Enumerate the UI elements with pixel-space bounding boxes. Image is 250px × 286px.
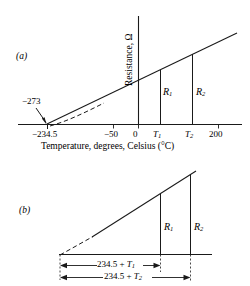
panel-a-x-axis-title: Temperature, degrees, Celsius (°C) xyxy=(41,142,174,152)
panel-b-dim1-arrow-right xyxy=(154,263,161,268)
panel-a-resistance-line xyxy=(47,33,237,124)
panel-a-r1-sub: 1 xyxy=(169,90,172,97)
panel-b-r2-label: R2 xyxy=(194,222,203,233)
panel-b-dim-t2-prefix: 234.5 + xyxy=(104,271,134,281)
resistance-temperature-figure: (a) Resistance, Ω −273 −234.5 −50 0 T1 T… xyxy=(0,0,250,286)
panel-a-y-axis-title: Resistance, Ω xyxy=(125,34,135,86)
panel-b-dim-t1-prefix: 234.5 + xyxy=(97,259,127,269)
panel-b-dimension-t2-label: 234.5 + T2 xyxy=(104,272,142,282)
panel-a-tick-label-200: 200 xyxy=(209,130,223,139)
panel-a-tick-label-minus234: −234.5 xyxy=(32,130,57,139)
panel-a-tick-label-t1: T1 xyxy=(153,130,161,140)
panel-a-tick-label-t2: T2 xyxy=(185,130,193,140)
panel-b-apex-dashed xyxy=(60,237,93,256)
panel-a-r1-label: R1 xyxy=(163,87,172,98)
panel-a-tick-label-minus50: −50 xyxy=(104,130,118,139)
panel-b-r1-sub: 1 xyxy=(170,225,173,232)
panel-b-dim1-arrow-left xyxy=(60,263,67,268)
panel-a-tick-label-t1-sub: 1 xyxy=(158,132,161,139)
panel-a-r2-sub: 2 xyxy=(202,90,205,97)
panel-a-minus273-arrowhead xyxy=(42,117,47,124)
panel-b-r2-sub: 2 xyxy=(200,225,203,232)
panel-b-dim-t1-sub: 1 xyxy=(132,262,135,269)
panel-b-dim2-arrow-left xyxy=(60,275,67,280)
panel-a-actual-curve-dashed xyxy=(50,103,104,126)
panel-b-dim-t2-sub: 2 xyxy=(139,274,142,281)
panel-a-absolute-zero-label: −273 xyxy=(22,97,41,106)
panel-b-tag: (b) xyxy=(19,206,30,216)
panel-b-resistance-line xyxy=(92,171,196,237)
panel-b-graphics xyxy=(59,171,212,281)
panel-b-dim2-arrow-right xyxy=(184,275,191,280)
panel-b-dimension-t1-label: 234.5 + T1 xyxy=(97,260,135,270)
panel-a-tick-label-t2-sub: 2 xyxy=(190,132,193,139)
panel-a-tick-label-zero: 0 xyxy=(133,130,138,139)
panel-a-tag: (a) xyxy=(16,52,27,62)
panel-a-r2-label: R2 xyxy=(196,87,205,98)
panel-b-r1-label: R1 xyxy=(164,222,173,233)
